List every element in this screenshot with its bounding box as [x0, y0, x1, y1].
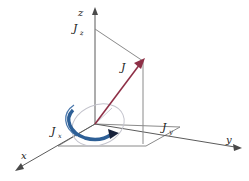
projection-lines	[95, 29, 143, 144]
y-axis-label: y	[225, 134, 232, 145]
jz-subscript: z	[79, 29, 84, 37]
angular-momentum-diagram: z y x J J z J x J y	[0, 0, 249, 181]
x-axis-label: x	[21, 150, 27, 161]
precession-arc-arrowhead	[108, 129, 119, 139]
jz-component-label: J z	[71, 22, 84, 37]
y-axis-arrowhead	[233, 144, 242, 151]
angular-momentum-vector	[95, 58, 145, 124]
jx-subscript: x	[58, 132, 62, 140]
jy-base: J	[160, 121, 167, 134]
j-vector-line	[95, 64, 140, 124]
z-axis-arrowhead	[92, 7, 98, 15]
diagram-canvas: z y x J J z J x J y	[0, 0, 249, 181]
z-axis-label: z	[77, 7, 84, 18]
x-axis-arrowhead	[15, 163, 24, 171]
jx-component-label: J x	[49, 125, 62, 140]
jz-to-tip-line	[95, 29, 143, 61]
jx-base: J	[49, 125, 56, 138]
jy-subscript: y	[168, 128, 173, 136]
jy-component-label: J y	[160, 121, 173, 136]
j-vector-label: J	[119, 61, 126, 74]
jz-base: J	[71, 22, 78, 35]
